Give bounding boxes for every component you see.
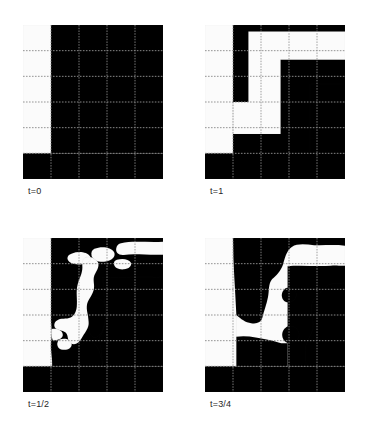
panel-thalf (23, 238, 163, 392)
panel-t0-label: t=0 (28, 186, 41, 196)
light-gray-region (99, 277, 163, 366)
panel-t0-plot (23, 25, 163, 179)
panel-t0 (23, 25, 163, 179)
panel-t34-plot (205, 238, 345, 392)
panel-thalf-label: t=1/2 (28, 399, 49, 409)
panel-thalf-plot (23, 238, 163, 392)
figure-canvas: t=0 t=1 t=1/2 t=3/4 (0, 0, 367, 429)
panel-t1 (205, 25, 345, 179)
panel-t1-label: t=1 (210, 186, 223, 196)
white-phase-region (91, 247, 114, 262)
light-gray-region (23, 153, 163, 179)
white-phase-region (116, 242, 163, 255)
panel-t1-plot (205, 25, 345, 179)
panel-t34-label: t=3/4 (210, 399, 231, 409)
dark-gray-region (310, 84, 345, 153)
light-gray-region (205, 153, 345, 179)
light-gray-region (205, 366, 345, 392)
panel-t34 (205, 238, 345, 392)
light-gray-region (23, 366, 163, 392)
